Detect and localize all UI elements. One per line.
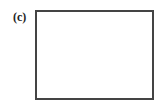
empty-panel-frame: [35, 10, 154, 100]
panel-label: (c): [13, 10, 26, 24]
